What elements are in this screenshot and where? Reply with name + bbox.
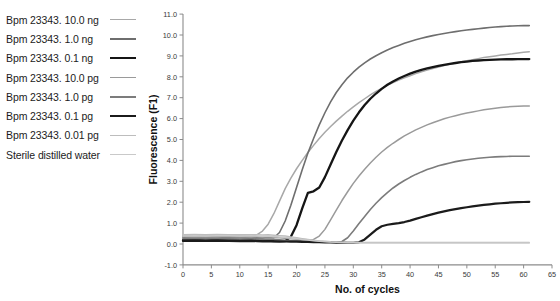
- x-axis-title: No. of cycles: [335, 283, 400, 295]
- plot-svg: -1.00.01.02.03.04.05.06.07.08.09.010.011…: [0, 0, 560, 301]
- amplification-curve: [183, 106, 529, 240]
- amplification-curve: [183, 156, 529, 242]
- y-tick-label: 5.0: [167, 135, 177, 144]
- y-tick-label: 2.0: [167, 198, 177, 207]
- curves-group: [183, 26, 529, 243]
- y-tick-label: 6.0: [167, 114, 177, 123]
- x-tick-label: 10: [236, 270, 244, 279]
- y-tick-label: 1.0: [167, 219, 177, 228]
- qpcr-amplification-figure: Bpm 23343. 10.0 ngBpm 23343. 1.0 ngBpm 2…: [0, 0, 560, 301]
- x-tick-label: 40: [406, 270, 414, 279]
- y-tick-label: -1.0: [164, 261, 177, 270]
- x-tick-label: 15: [264, 270, 272, 279]
- x-tick-label: 30: [349, 270, 357, 279]
- x-tick-label: 35: [378, 270, 386, 279]
- y-axis-title: Fluorescence (F1): [147, 95, 159, 185]
- x-tick-label: 20: [292, 270, 300, 279]
- x-tick-label: 5: [209, 270, 213, 279]
- y-tick-label: 3.0: [167, 177, 177, 186]
- y-tick-label: 8.0: [167, 73, 177, 82]
- y-tick-label: 11.0: [163, 10, 177, 19]
- x-tick-label: 65: [548, 270, 556, 279]
- x-tick-label: 50: [463, 270, 471, 279]
- x-tick-label: 55: [491, 270, 499, 279]
- x-tick-label: 60: [520, 270, 528, 279]
- x-tick-label: 45: [434, 270, 442, 279]
- plot-area: -1.00.01.02.03.04.05.06.07.08.09.010.011…: [0, 0, 560, 301]
- y-tick-label: 0.0: [167, 240, 177, 249]
- y-tick-label: 10.0: [163, 31, 177, 40]
- x-tick-label: 25: [321, 270, 329, 279]
- x-tick-label: 0: [181, 270, 185, 279]
- amplification-curve: [183, 59, 529, 241]
- y-tick-label: 7.0: [167, 93, 177, 102]
- y-tick-label: 4.0: [167, 156, 177, 165]
- y-tick-label: 9.0: [167, 52, 177, 61]
- amplification-curve: [183, 52, 529, 236]
